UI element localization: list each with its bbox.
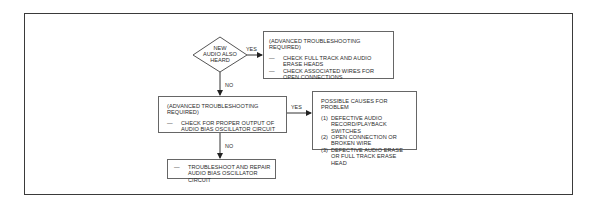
item-text: DEFECTIVE AUDIO ERASE OR FULL TRACK ERAS… (331, 147, 412, 166)
list-item: — CHECK FULL TRACK AND AUDIO ERASE HEADS (269, 55, 389, 68)
decision-yes-label: YES (246, 46, 257, 52)
dash: — (167, 120, 181, 133)
list-item: — CHECK ASSOCIATED WIRES FOR OPEN CONNEC… (269, 68, 389, 81)
item-text: TROUBLESHOOT AND REPAIR AUDIO BIAS OSCIL… (188, 164, 271, 183)
decision-no-label: NO (225, 82, 233, 88)
dash: — (269, 55, 283, 68)
item-number: (1) (321, 115, 331, 134)
box-title: (ADVANCED TROUBLESHOOTING REQUIRED) (269, 38, 389, 51)
box-title: POSSIBLE CAUSES FOR PROBLEM (321, 98, 412, 111)
item-text: CHECK FOR PROPER OUTPUT OF AUDIO BIAS OS… (181, 120, 282, 133)
item-number: (2) (321, 134, 331, 147)
repair-box: — TROUBLESHOOT AND REPAIR AUDIO BIAS OSC… (167, 159, 276, 179)
list-item: — CHECK FOR PROPER OUTPUT OF AUDIO BIAS … (167, 120, 282, 133)
decision-text: NEW AUDIO ALSO HEARD (195, 45, 245, 64)
item-text: DEFECTIVE AUDIO RECORD/PLAYBACK SWITCHES (331, 115, 412, 134)
box-title: (ADVANCED TROUBLESHOOTING REQUIRED) (167, 103, 282, 116)
advanced-troubleshooting-box-1: (ADVANCED TROUBLESHOOTING REQUIRED) — CH… (263, 31, 394, 79)
dash: — (174, 164, 188, 183)
item-number: (3) (321, 147, 331, 166)
item-text: OPEN CONNECTION OR BROKEN WIRE (331, 134, 412, 147)
advanced-troubleshooting-box-2: (ADVANCED TROUBLESHOOTING REQUIRED) — CH… (158, 96, 287, 133)
list-item: (1) DEFECTIVE AUDIO RECORD/PLAYBACK SWIT… (321, 115, 412, 134)
decision-line: HEARD (195, 57, 245, 63)
possible-causes-box: POSSIBLE CAUSES FOR PROBLEM (1) DEFECTIV… (312, 91, 417, 150)
check-yes-label: YES (291, 104, 302, 110)
item-text: CHECK FULL TRACK AND AUDIO ERASE HEADS (283, 55, 389, 68)
item-text: CHECK ASSOCIATED WIRES FOR OPEN CONNECTI… (283, 68, 389, 81)
list-item: — TROUBLESHOOT AND REPAIR AUDIO BIAS OSC… (174, 164, 271, 183)
check-no-label: NO (225, 143, 233, 149)
list-item: (2) OPEN CONNECTION OR BROKEN WIRE (321, 134, 412, 147)
dash: — (269, 68, 283, 81)
list-item: (3) DEFECTIVE AUDIO ERASE OR FULL TRACK … (321, 147, 412, 166)
